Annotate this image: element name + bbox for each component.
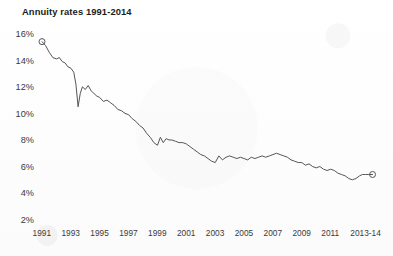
y-tick-label: 4% <box>8 188 34 198</box>
chart-screenshot: Annuity rates 1991-2014 16%14%12%10%8%6%… <box>0 0 393 256</box>
x-tick-label: 2001 <box>177 228 195 238</box>
x-tick-label: 1997 <box>119 228 137 238</box>
plot-area <box>0 0 393 256</box>
y-tick-label: 12% <box>8 82 34 92</box>
y-tick-label: 10% <box>8 109 34 119</box>
x-tick-label: 1993 <box>61 228 79 238</box>
y-tick-label: 16% <box>8 29 34 39</box>
x-tick-label: 2003 <box>206 228 224 238</box>
x-tick-label: 2009 <box>292 228 310 238</box>
y-tick-label: 8% <box>8 135 34 145</box>
x-tick-label: 2007 <box>264 228 282 238</box>
y-tick-label: 6% <box>8 162 34 172</box>
y-tick-label: 2% <box>8 215 34 225</box>
x-tick-label: 1991 <box>33 228 51 238</box>
x-tick-label: 1995 <box>90 228 108 238</box>
x-tick-label: 2005 <box>235 228 253 238</box>
x-tick-label: 1999 <box>148 228 166 238</box>
y-tick-label: 14% <box>8 56 34 66</box>
line-series-annuity-rate <box>0 0 393 256</box>
series-line <box>42 42 373 180</box>
x-tick-label: 2013-14 <box>350 228 380 238</box>
x-tick-label: 2011 <box>321 228 339 238</box>
